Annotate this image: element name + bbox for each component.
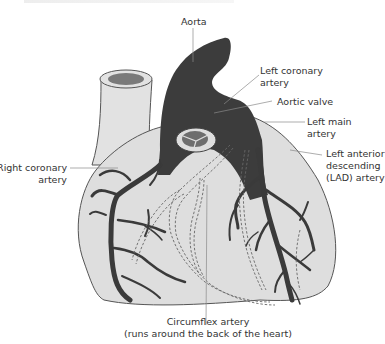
left-main-line-1: Left main <box>307 116 352 128</box>
lad-line-1: Left anterior <box>326 148 385 160</box>
right-coronary-line-2: artery <box>0 174 67 186</box>
left-coronary-line-2: artery <box>260 77 323 89</box>
label-aortic-valve: Aortic valve <box>277 96 333 108</box>
aortic-valve-text: Aortic valve <box>277 96 333 108</box>
aortic-valve <box>176 128 216 152</box>
left-main-line-2: artery <box>307 128 352 140</box>
label-lad: Left anterior descending (LAD) artery <box>326 148 385 184</box>
lad-line-2: descending <box>326 160 385 172</box>
aorta-label-text: Aorta <box>181 16 207 28</box>
circumflex-line-1: Circumflex artery <box>118 316 298 328</box>
label-left-main: Left main artery <box>307 116 352 140</box>
label-left-coronary: Left coronary artery <box>260 65 323 89</box>
left-coronary-leader <box>224 75 259 104</box>
label-right-coronary: Right coronary artery <box>0 162 67 186</box>
circumflex-line-2: (runs around the back of the heart) <box>118 328 298 340</box>
left-coronary-line-1: Left coronary <box>260 65 323 77</box>
label-circumflex: Circumflex artery (runs around the back … <box>118 316 298 340</box>
label-aorta: Aorta <box>181 16 207 28</box>
right-coronary-line-1: Right coronary <box>0 162 67 174</box>
lad-line-3: (LAD) artery <box>326 172 385 184</box>
